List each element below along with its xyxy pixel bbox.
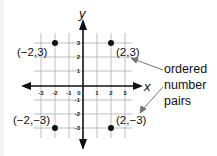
- annotation-line: number: [164, 78, 206, 92]
- pointer-arrow-upper-icon: [131, 58, 138, 63]
- x-tick: -1: [66, 90, 72, 96]
- y-tick: -3: [75, 125, 81, 131]
- pointer-line-upper: [136, 60, 163, 70]
- x-axis-label: x: [143, 79, 151, 94]
- y-axis-down-arrow-icon: [79, 139, 87, 150]
- y-tick: -1: [75, 97, 81, 103]
- point-label: (2,3): [116, 46, 140, 58]
- point-neg2-3: [52, 40, 58, 46]
- point-2-neg3: [108, 125, 114, 131]
- x-tick: 3: [123, 90, 127, 96]
- annotation-line: pairs: [164, 94, 191, 108]
- x-axis-left-arrow-icon: [21, 82, 31, 90]
- y-axis: [79, 19, 87, 150]
- point-2-3: [108, 40, 114, 46]
- y-tick: -2: [75, 111, 81, 117]
- x-tick: 2: [109, 90, 113, 96]
- x-axis-right-arrow-icon: [133, 82, 143, 90]
- y-axis-label: y: [78, 6, 87, 21]
- x-tick: -2: [52, 90, 58, 96]
- point-neg2-neg3: [52, 125, 58, 131]
- x-tick: 0: [77, 90, 81, 96]
- coordinate-plane: x y -3 -2 -1 0 1 2 3 3 2 1 -1 -2 -3 (−2,…: [0, 0, 217, 156]
- annotation-line: ordered: [164, 62, 207, 76]
- point-label: (−2,−3): [13, 114, 50, 126]
- x-tick: 1: [95, 90, 99, 96]
- point-label: (−2,3): [17, 46, 48, 58]
- x-tick: -3: [38, 90, 44, 96]
- annotation-text: ordered number pairs: [164, 62, 207, 108]
- point-label: (2,−3): [116, 114, 147, 126]
